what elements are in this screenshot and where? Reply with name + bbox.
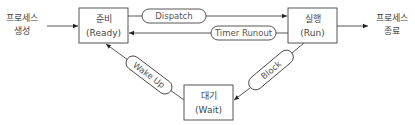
svg-text:대기: 대기	[201, 91, 217, 101]
transition-wake-up[interactable]: Wake Up	[123, 53, 175, 97]
process-state-diagram: 프로세스 생성 준비 (Ready) 실행 (Run) 대기 (Wait) 프로…	[0, 0, 415, 125]
wakeup-line-lower	[170, 90, 184, 100]
svg-text:프로세스: 프로세스	[376, 13, 408, 23]
svg-text:(Wait): (Wait)	[195, 105, 222, 115]
state-wait[interactable]: 대기 (Wait)	[184, 85, 233, 120]
svg-text:종료: 종료	[384, 26, 400, 36]
block-arrow	[234, 88, 250, 100]
svg-text:Dispatch: Dispatch	[155, 11, 192, 21]
svg-text:생성: 생성	[14, 26, 30, 36]
svg-text:(Run): (Run)	[300, 28, 324, 38]
wake-up-arrow	[106, 44, 128, 60]
state-ready[interactable]: 준비 (Ready)	[79, 8, 128, 43]
svg-text:준비: 준비	[96, 14, 112, 24]
svg-text:실행: 실행	[305, 13, 321, 24]
transition-dispatch[interactable]: Dispatch	[142, 9, 206, 23]
process-create-label: 프로세스 생성	[6, 13, 38, 36]
svg-text:프로세스: 프로세스	[6, 13, 38, 23]
block-line-upper	[292, 43, 304, 53]
process-terminate-label: 프로세스 종료	[376, 13, 408, 36]
svg-text:Wake Up: Wake Up	[131, 60, 167, 90]
svg-text:Timer Runout: Timer Runout	[214, 28, 273, 38]
state-run[interactable]: 실행 (Run)	[288, 8, 337, 43]
svg-text:(Ready): (Ready)	[86, 28, 121, 38]
transition-timer-runout[interactable]: Timer Runout	[211, 26, 276, 40]
transition-block[interactable]: Block	[246, 47, 296, 92]
